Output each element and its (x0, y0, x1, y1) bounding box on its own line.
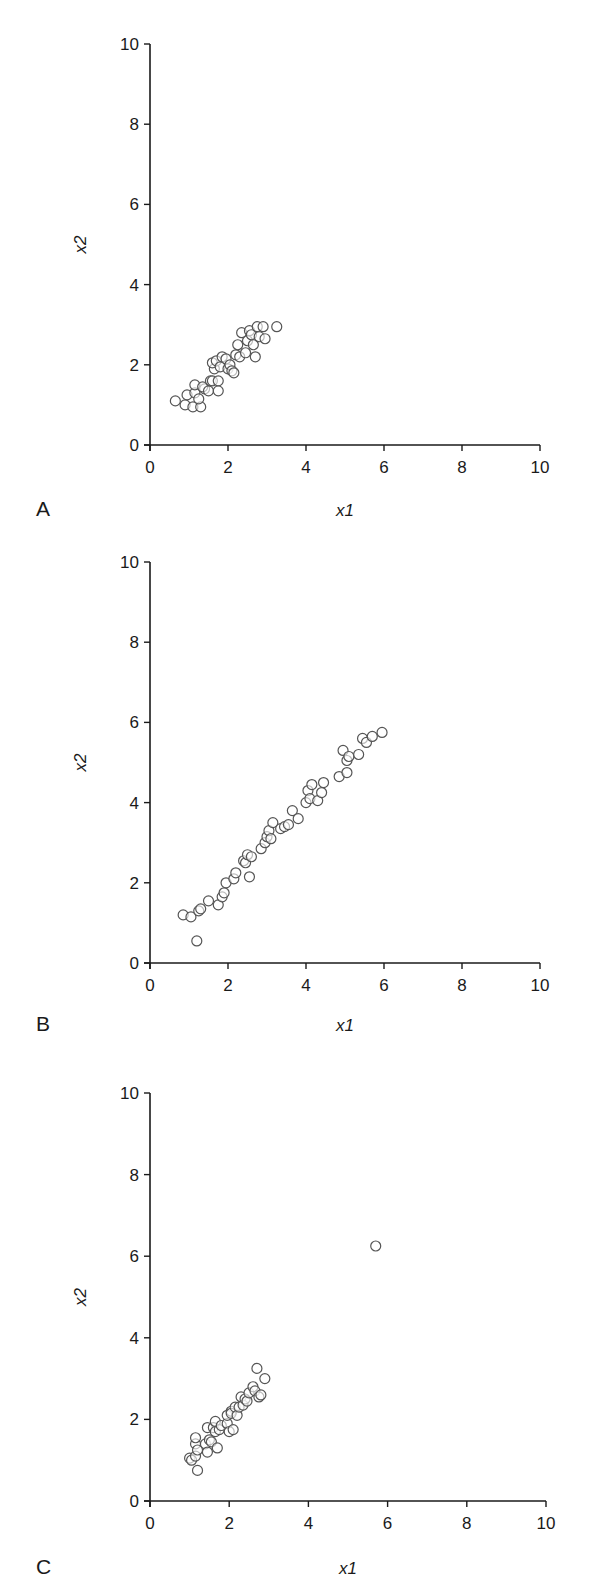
data-point (192, 936, 202, 946)
data-point (307, 780, 317, 790)
data-point (317, 788, 327, 798)
data-point (233, 340, 243, 350)
data-point (256, 1390, 266, 1400)
data-point (193, 1465, 203, 1475)
x-tick-label: 6 (379, 976, 388, 995)
x-tick-label: 0 (145, 458, 154, 477)
data-point (219, 888, 229, 898)
data-point (204, 386, 214, 396)
x-tick-label: 2 (223, 458, 232, 477)
data-point (371, 1241, 381, 1251)
x-tick-label: 4 (301, 458, 310, 477)
scatter-plot-a: 02468100246810x1x2A (0, 0, 599, 530)
data-point (367, 731, 377, 741)
scatter-plot-c: 02468100246810x1x2C (0, 1048, 599, 1586)
data-point (191, 1433, 201, 1443)
panel-label: B (36, 1012, 50, 1035)
data-point (272, 322, 282, 332)
y-tick-label: 0 (130, 1492, 139, 1511)
x-tick-label: 4 (304, 1514, 313, 1533)
y-tick-label: 8 (130, 115, 139, 134)
data-point (293, 814, 303, 824)
data-point (196, 904, 206, 914)
y-tick-label: 0 (130, 954, 139, 973)
x-tick-label: 2 (224, 1514, 233, 1533)
y-tick-label: 2 (130, 874, 139, 893)
y-tick-label: 4 (130, 794, 139, 813)
x-tick-label: 10 (531, 458, 550, 477)
scatter-plot-b: 02468100246810x1x2B (0, 518, 599, 1048)
y-tick-label: 6 (130, 713, 139, 732)
data-point (194, 394, 204, 404)
data-point (266, 834, 276, 844)
y-tick-label: 8 (130, 633, 139, 652)
x-tick-label: 10 (537, 1514, 556, 1533)
x-axis-title: x1 (338, 1559, 357, 1578)
y-axis-title: x2 (71, 235, 90, 255)
data-point (212, 1443, 222, 1453)
panel-label: C (36, 1555, 51, 1578)
data-point (260, 334, 270, 344)
data-point (246, 852, 256, 862)
x-tick-label: 8 (462, 1514, 471, 1533)
data-point (241, 348, 251, 358)
data-point (344, 751, 354, 761)
data-point (170, 396, 180, 406)
x-tick-label: 0 (145, 1514, 154, 1533)
y-tick-label: 2 (130, 1410, 139, 1429)
y-tick-label: 6 (130, 195, 139, 214)
y-tick-label: 2 (130, 356, 139, 375)
y-tick-label: 4 (130, 1329, 139, 1348)
chart-panel-a: 02468100246810x1x2A (0, 0, 599, 530)
x-tick-label: 6 (379, 458, 388, 477)
data-point (204, 896, 214, 906)
data-point (377, 727, 387, 737)
data-point (228, 1425, 238, 1435)
x-tick-label: 8 (457, 458, 466, 477)
data-point (244, 872, 254, 882)
data-point (231, 868, 241, 878)
data-point (342, 768, 352, 778)
x-tick-label: 2 (223, 976, 232, 995)
data-point (283, 820, 293, 830)
y-axis-title: x2 (71, 753, 90, 773)
x-axis-title: x1 (335, 1016, 354, 1035)
x-tick-label: 0 (145, 976, 154, 995)
y-tick-label: 0 (130, 436, 139, 455)
data-point (252, 1363, 262, 1373)
y-tick-label: 10 (120, 553, 139, 572)
y-tick-label: 6 (130, 1247, 139, 1266)
chart-panel-b: 02468100246810x1x2B (0, 518, 599, 1048)
data-point (258, 322, 268, 332)
y-tick-label: 10 (120, 1084, 139, 1103)
panel-label: A (36, 497, 50, 520)
y-axis-title: x2 (71, 1287, 90, 1307)
x-tick-label: 4 (301, 976, 310, 995)
data-point (229, 368, 239, 378)
y-tick-label: 4 (130, 276, 139, 295)
chart-panel-c: 02468100246810x1x2C (0, 1048, 599, 1586)
x-tick-label: 8 (457, 976, 466, 995)
data-point (250, 352, 260, 362)
data-point (319, 778, 329, 788)
data-point (202, 1447, 212, 1457)
data-point (213, 386, 223, 396)
y-tick-label: 10 (120, 35, 139, 54)
x-tick-label: 10 (531, 976, 550, 995)
x-tick-label: 6 (383, 1514, 392, 1533)
data-point (213, 376, 223, 386)
y-tick-label: 8 (130, 1166, 139, 1185)
data-point (354, 749, 364, 759)
data-point (260, 1374, 270, 1384)
